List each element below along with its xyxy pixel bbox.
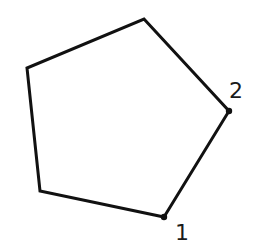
vertex-1-label: 1 <box>175 220 189 245</box>
vertex-2-label: 2 <box>229 78 243 103</box>
pentagon-diagram: 1 2 <box>0 0 261 246</box>
vertex-1-dot <box>161 214 167 220</box>
vertex-2-dot <box>226 108 232 114</box>
pentagon-shape <box>27 19 229 217</box>
